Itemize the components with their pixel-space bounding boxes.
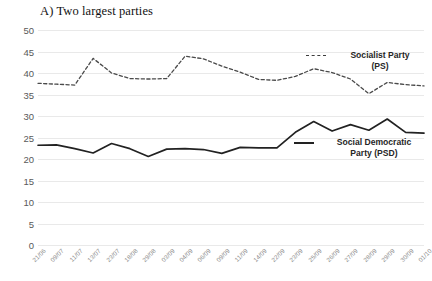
x-axis-tick-label: 04/09: [178, 247, 194, 263]
legend-label-psd-line2: Party (PSD): [350, 148, 397, 158]
x-axis-tick-label: 25/09: [306, 247, 322, 263]
x-axis-tick-label: 23/07: [104, 247, 120, 263]
x-axis-tick-label: 11/09: [233, 247, 249, 263]
x-axis-tick-label: 23/09: [288, 247, 304, 263]
y-axis-tick-label: 35: [23, 89, 34, 100]
x-axis-tick-label: 09/07: [49, 247, 65, 263]
legend-label-psd-line1: Social Democratic: [337, 137, 412, 147]
x-axis-tick-label: 29/09: [380, 247, 396, 263]
legend-socialist-party: Socialist Party (PS): [330, 50, 430, 71]
legend-key-solid-icon: [294, 142, 314, 144]
y-axis-tick-label: 30: [23, 111, 34, 122]
chart-title: A) Two largest parties: [40, 4, 153, 19]
x-axis-tick-label: 27/09: [343, 247, 359, 263]
x-axis-tick-label: 18/08: [123, 247, 139, 263]
x-axis-tick-label: 29/08: [141, 247, 157, 263]
x-axis-tick-label: 01/10: [417, 247, 432, 263]
x-axis-tick-label: 14/09: [251, 247, 267, 263]
x-axis-tick-label: 22/09: [270, 247, 286, 263]
chart-panel: A) Two largest parties 05101520253035404…: [0, 0, 432, 281]
y-axis: 05101520253035404550: [0, 30, 34, 245]
y-axis-tick-label: 40: [23, 68, 34, 79]
y-axis-tick-label: 5: [29, 218, 34, 229]
x-axis: 21/0609/0711/0713/0723/0718/0829/0803/09…: [38, 247, 424, 281]
x-axis-tick-label: 30/09: [398, 247, 414, 263]
legend-label-ps-line1: Socialist Party: [350, 50, 409, 60]
x-axis-tick-label: 13/07: [86, 247, 102, 263]
legend-label-ps-line2: (PS): [371, 61, 388, 71]
x-axis-tick-label: 28/09: [362, 247, 378, 263]
gridline: [38, 245, 424, 246]
y-axis-tick-label: 25: [23, 132, 34, 143]
x-axis-tick-label: 03/09: [159, 247, 175, 263]
x-axis-tick-label: 11/07: [68, 247, 84, 263]
x-axis-tick-label: 26/09: [325, 247, 341, 263]
x-axis-tick-label: 06/09: [196, 247, 212, 263]
legend-key-dashed-icon: [306, 55, 326, 56]
y-axis-tick-label: 0: [29, 240, 34, 251]
legend-social-democratic-party: Social Democratic Party (PSD): [318, 137, 430, 158]
y-axis-tick-label: 15: [23, 175, 34, 186]
y-axis-tick-label: 45: [23, 46, 34, 57]
x-axis-tick-label: 09/09: [214, 247, 230, 263]
y-axis-tick-label: 10: [23, 197, 34, 208]
y-axis-tick-label: 50: [23, 25, 34, 36]
y-axis-tick-label: 20: [23, 154, 34, 165]
